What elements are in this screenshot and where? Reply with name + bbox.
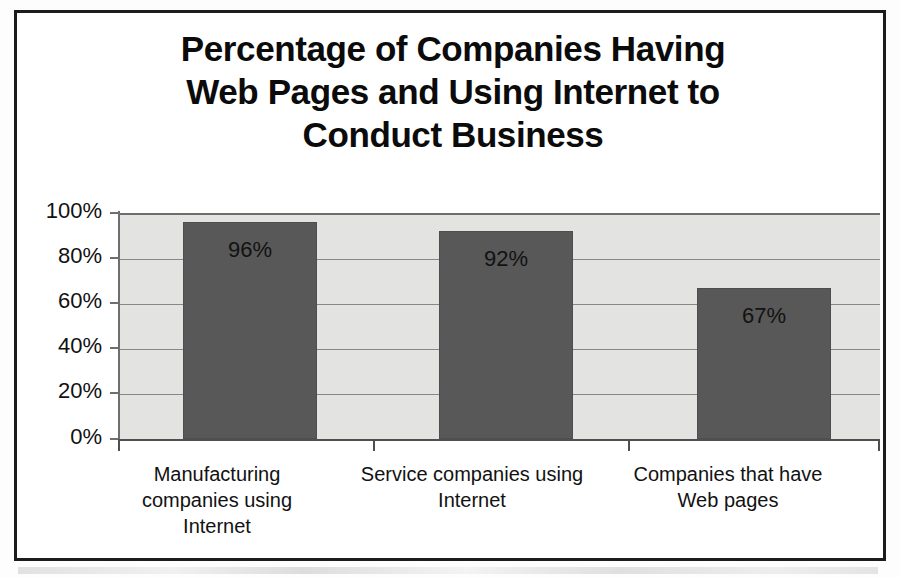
x-axis-line <box>118 439 880 441</box>
category-label-0-line-1: Manufacturing <box>92 461 342 487</box>
x-tick-end <box>878 441 880 451</box>
bar-service-companies-using-internet[interactable]: 92% <box>439 231 573 439</box>
category-label-1-line-2: Internet <box>347 487 597 513</box>
category-label-0-line-3: Internet <box>92 513 342 539</box>
y-tick-40: 40% <box>110 347 119 349</box>
y-tick-label-0: 0% <box>70 424 102 450</box>
category-label-manufacturing: Manufacturing companies using Internet <box>92 461 342 539</box>
bar-value-label-2: 67% <box>698 303 830 329</box>
y-tick-label-60: 60% <box>58 288 102 314</box>
y-tick-label-80: 80% <box>58 243 102 269</box>
scanned-page: Percentage of Companies Having Web Pages… <box>0 0 900 577</box>
figure-frame: Percentage of Companies Having Web Pages… <box>14 10 886 561</box>
y-tick-label-100: 100% <box>46 198 102 224</box>
category-label-web-pages: Companies that have Web pages <box>603 461 853 513</box>
y-tick-100: 100% <box>110 212 119 214</box>
y-axis-line <box>118 211 120 441</box>
bar-manufacturing-companies-using-internet[interactable]: 96% <box>183 222 317 439</box>
category-label-1-line-1: Service companies using <box>347 461 597 487</box>
bar-companies-that-have-web-pages[interactable]: 67% <box>697 288 831 439</box>
chart-title-line-2: Web Pages and Using Internet to <box>77 70 829 113</box>
chart-title-line-1: Percentage of Companies Having <box>77 27 829 70</box>
category-label-2-line-2: Web pages <box>603 487 853 513</box>
y-tick-60: 60% <box>110 302 119 304</box>
category-label-0-line-2: companies using <box>92 487 342 513</box>
scan-artifact-line <box>18 567 878 574</box>
category-label-2-line-1: Companies that have <box>603 461 853 487</box>
chart-title-line-3: Conduct Business <box>77 113 829 156</box>
plot-region: 100% 80% 60% 40% 20% 0% 96% 92% <box>105 209 880 454</box>
y-tick-label-40: 40% <box>58 333 102 359</box>
x-tick-2 <box>628 441 630 451</box>
bar-value-label-1: 92% <box>440 246 572 272</box>
y-tick-label-20: 20% <box>58 378 102 404</box>
x-tick-1 <box>373 441 375 451</box>
category-label-service: Service companies using Internet <box>347 461 597 513</box>
chart-title: Percentage of Companies Having Web Pages… <box>77 27 829 156</box>
y-tick-80: 80% <box>110 257 119 259</box>
bar-value-label-0: 96% <box>184 237 316 263</box>
y-tick-20: 20% <box>110 392 119 394</box>
x-tick-start <box>118 441 120 451</box>
